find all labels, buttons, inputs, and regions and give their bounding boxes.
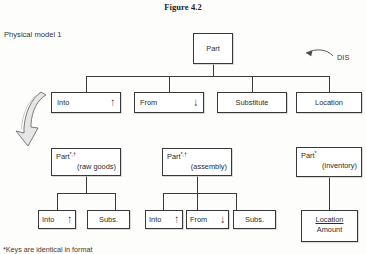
connector-group2-drop-into bbox=[163, 193, 164, 210]
node-location-level2[interactable]: Location bbox=[296, 92, 362, 113]
connector-group1-bus bbox=[57, 193, 115, 194]
figure-title: Figure 4.2 bbox=[0, 2, 366, 12]
figure-canvas: Figure 4.2 Physical model 1 DIS *Keys ar… bbox=[0, 0, 366, 254]
node-from-level2[interactable]: From ↓ bbox=[134, 92, 204, 113]
arrow-down-icon: ↓ bbox=[194, 97, 199, 108]
key-marker: *,† bbox=[181, 151, 187, 157]
node-into-assembly[interactable]: Into ↑ bbox=[145, 210, 183, 229]
node-label: Part bbox=[206, 44, 220, 53]
connector-group1-drop-subs bbox=[115, 193, 116, 210]
connector-root-stem bbox=[213, 64, 214, 76]
connector-level2-bus bbox=[86, 76, 329, 77]
connector-group1-drop-into bbox=[57, 193, 58, 210]
connector-inventory-stem bbox=[329, 177, 330, 210]
node-part-inventory[interactable]: Part* (inventory) bbox=[296, 147, 362, 177]
thick-curved-arrow-icon bbox=[16, 92, 46, 146]
node-label: Into bbox=[42, 215, 54, 224]
connector-group2-drop-subs bbox=[236, 193, 237, 210]
connector-drop-substitute bbox=[252, 76, 253, 92]
node-into-level2[interactable]: Into ↑ bbox=[51, 92, 121, 113]
node-part-assembly[interactable]: Part*,† (assembly) bbox=[162, 148, 232, 176]
connector-group2-drop-from bbox=[197, 193, 198, 210]
dis-annotation-label: DIS bbox=[337, 53, 349, 62]
node-label-line2: (inventory) bbox=[301, 161, 357, 170]
dis-arrow-icon bbox=[306, 50, 333, 56]
connector-assembly-stem bbox=[197, 176, 198, 193]
node-label: From bbox=[140, 98, 157, 107]
footnote-text: *Keys are identical in format bbox=[3, 245, 93, 254]
node-subs-assembly[interactable]: Subs. bbox=[233, 210, 276, 229]
node-part-raw-goods[interactable]: Part*,† (raw goods) bbox=[51, 148, 121, 176]
node-subs-raw-goods[interactable]: Subs. bbox=[87, 210, 130, 229]
node-into-raw-goods[interactable]: Into ↑ bbox=[38, 210, 76, 229]
arrow-up-icon: ↑ bbox=[175, 214, 180, 225]
physical-model-label: Physical model 1 bbox=[4, 30, 61, 39]
data-field-amount: Amount bbox=[302, 225, 357, 235]
node-label-line2: (assembly) bbox=[167, 162, 227, 171]
node-location-amount[interactable]: Location Amount bbox=[301, 210, 358, 242]
node-part-root[interactable]: Part bbox=[193, 33, 233, 64]
node-label: From bbox=[190, 215, 207, 224]
arrow-up-icon: ↑ bbox=[68, 214, 73, 225]
node-label-line2: (raw goods) bbox=[56, 162, 116, 171]
arrow-down-icon: ↓ bbox=[221, 214, 226, 225]
key-field-location: Location bbox=[302, 215, 357, 225]
node-label: Substitute bbox=[236, 98, 269, 107]
node-label: Subs. bbox=[99, 215, 118, 224]
node-label-line1: Part*,† bbox=[167, 151, 227, 162]
node-label: Into bbox=[149, 215, 161, 224]
node-label-line1: Part* bbox=[301, 150, 357, 161]
key-marker: * bbox=[315, 150, 317, 156]
node-label: Location bbox=[315, 98, 343, 107]
node-from-assembly[interactable]: From ↓ bbox=[186, 210, 229, 229]
connector-drop-into bbox=[86, 76, 87, 92]
node-label: Into bbox=[57, 98, 69, 107]
connector-drop-location bbox=[329, 76, 330, 92]
connector-group2-bus bbox=[163, 193, 236, 194]
node-label-line1: Part*,† bbox=[56, 151, 116, 162]
connector-rawgoods-stem bbox=[86, 176, 87, 193]
connector-drop-from bbox=[169, 76, 170, 92]
node-substitute-level2[interactable]: Substitute bbox=[217, 92, 287, 113]
arrow-up-icon: ↑ bbox=[111, 97, 116, 108]
key-marker: *,† bbox=[70, 151, 76, 157]
node-label: Subs. bbox=[245, 215, 264, 224]
